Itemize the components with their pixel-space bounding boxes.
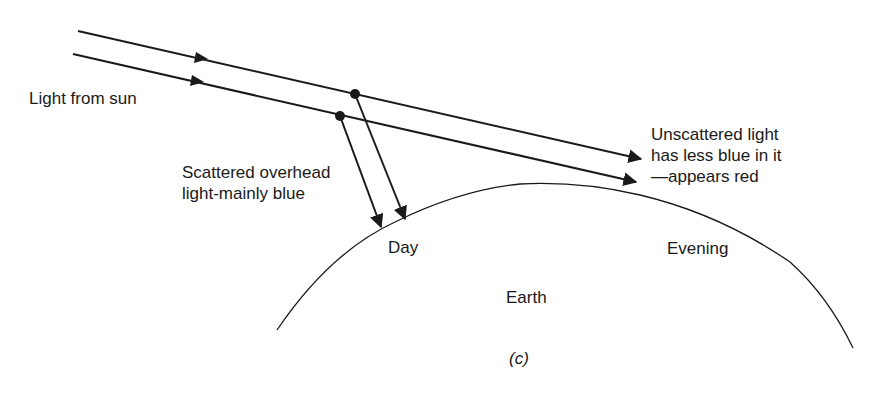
earth-surface-curve xyxy=(277,183,853,348)
scattered-ray-lower xyxy=(340,116,381,227)
earth-label: Earth xyxy=(506,287,547,308)
light-from-sun-label: Light from sun xyxy=(29,88,137,109)
scattered-ray-upper xyxy=(355,94,405,219)
scattered-light-label: Scattered overhead light-mainly blue xyxy=(182,162,330,204)
unscattered-light-label: Unscattered light has less blue in it —a… xyxy=(651,124,781,187)
ray-direction-arrow-icon xyxy=(194,52,208,63)
day-label: Day xyxy=(388,237,418,258)
evening-label: Evening xyxy=(667,238,728,259)
figure-caption: (c) xyxy=(509,348,529,369)
sun-ray-lower xyxy=(73,54,636,182)
scattering-diagram xyxy=(0,0,881,395)
ray-direction-arrow-icon xyxy=(190,75,204,86)
